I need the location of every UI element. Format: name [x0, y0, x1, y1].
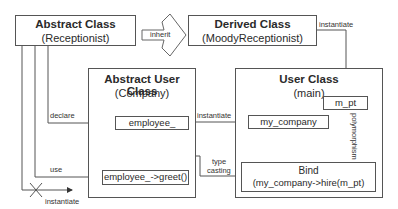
instantiate-derived-label: instantiate: [319, 20, 353, 29]
my-company-box: my_company: [248, 115, 329, 129]
inherit-label: inherit: [150, 30, 170, 39]
instantiate-crossed-label: instantiate: [45, 197, 79, 206]
derived-class-name: (MoodyReceptionist): [189, 32, 316, 44]
use-label: use: [50, 165, 62, 174]
derived-class-box: Derived Class (MoodyReceptionist): [188, 15, 317, 46]
m-pt-box: m_pt: [323, 96, 368, 110]
greet-call-box: employee_->greet(): [102, 170, 189, 185]
bind-box: Bind (my_company->hire(m_pt): [241, 162, 376, 192]
bind-call: (my_company->hire(m_pt): [242, 177, 375, 189]
abstract-user-class-name: (Company): [89, 87, 195, 99]
employee-member-box: employee_: [115, 116, 189, 130]
abstract-class-title: Abstract Class: [16, 18, 135, 30]
type-casting-label-2: casting: [207, 166, 231, 175]
abstract-class-name: (Receptionist): [16, 32, 135, 44]
declare-label: declare: [50, 111, 75, 120]
abstract-class-box: Abstract Class (Receptionist): [15, 15, 136, 46]
bind-title: Bind: [242, 165, 375, 177]
derived-class-title: Derived Class: [189, 18, 316, 30]
polymorphism-label: polymorphism: [350, 113, 359, 160]
type-casting-label-1: type: [212, 157, 226, 166]
instantiate-company-label: instantiate: [197, 111, 231, 120]
user-class-title: User Class: [236, 73, 382, 85]
